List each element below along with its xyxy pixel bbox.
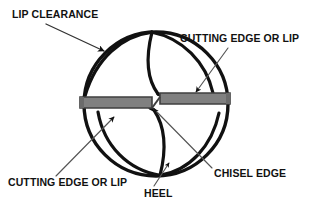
drill-point-diagram: LIP CLEARANCE CUTTING EDGE OR LIP CUTTIN…	[0, 0, 311, 209]
label-chisel-edge: CHISEL EDGE	[214, 167, 286, 179]
label-cutting-edge-or-lip-top: CUTTING EDGE OR LIP	[180, 32, 299, 44]
label-cutting-edge-or-lip-bottom: CUTTING EDGE OR LIP	[8, 176, 127, 188]
cutting-lip-right-bar	[160, 93, 230, 104]
diagram-canvas: LIP CLEARANCE CUTTING EDGE OR LIP CUTTIN…	[0, 0, 311, 209]
lip-left-end-cap	[80, 97, 84, 108]
lip-right-end-cap	[226, 93, 230, 104]
label-lip-clearance: LIP CLEARANCE	[12, 8, 98, 20]
cutting-lip-left-bar	[80, 97, 152, 108]
label-heel: HEEL	[144, 187, 173, 199]
leader-line-lip-clearance	[46, 24, 104, 51]
